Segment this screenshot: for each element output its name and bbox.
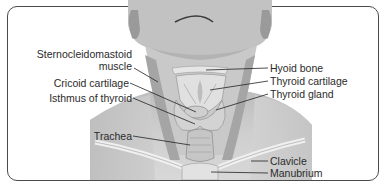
- label-sternocleidomastoid-line1: Sternocleidomastoid: [37, 48, 132, 60]
- label-isthmus-of-thyroid: Isthmus of thyroid: [49, 92, 132, 104]
- label-hyoid-bone: Hyoid bone: [270, 62, 323, 74]
- label-sternocleidomastoid: Sternocleidomastoid muscle: [37, 48, 132, 72]
- label-thyroid-cartilage: Thyroid cartilage: [270, 75, 348, 87]
- label-clavicle: Clavicle: [270, 155, 307, 167]
- label-manubrium: Manubrium: [270, 167, 323, 179]
- label-cricoid-cartilage: Cricoid cartilage: [54, 77, 129, 89]
- head-shape: [128, 0, 272, 55]
- label-thyroid-gland: Thyroid gland: [270, 88, 334, 100]
- label-trachea: Trachea: [94, 130, 132, 142]
- label-sternocleidomastoid-line2: muscle: [37, 60, 132, 72]
- manubrium: [182, 163, 218, 180]
